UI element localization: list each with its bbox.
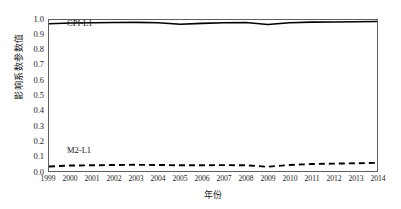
x-tick-label: 2000 — [62, 174, 77, 183]
x-tick-label: 2013 — [348, 174, 363, 183]
y-tick-label: 0.9 — [33, 30, 44, 39]
y-axis-tick-labels: 1.00.90.80.70.60.50.40.30.20.10.0 — [22, 13, 44, 173]
plot-svg — [49, 20, 377, 171]
x-tick-label: 2004 — [150, 174, 165, 183]
plot-area: CPI-L1 M2-L1 — [48, 19, 378, 172]
x-tick-label: 2002 — [106, 174, 121, 183]
y-tick-label: 0.1 — [33, 152, 44, 161]
y-tick-label: 0.8 — [33, 45, 44, 54]
x-tick-label: 1999 — [40, 174, 55, 183]
x-tick-label: 2011 — [305, 174, 320, 183]
y-tick-label: 0.2 — [33, 137, 44, 146]
line-chart: 影响系数参数值 1.00.90.80.70.60.50.40.30.20.10.… — [0, 0, 401, 209]
y-tick-label: 0.4 — [33, 106, 44, 115]
x-tick-label: 2010 — [282, 174, 297, 183]
x-tick-label: 2012 — [326, 174, 341, 183]
series-line-cpi — [49, 22, 377, 25]
x-tick-label: 2005 — [172, 174, 187, 183]
x-tick-label: 2009 — [260, 174, 275, 183]
x-tick-label: 2001 — [84, 174, 99, 183]
x-tick-label: 2006 — [194, 174, 209, 183]
series-label-cpi: CPI-L1 — [67, 18, 93, 28]
y-tick-label: 0.7 — [33, 60, 44, 69]
y-tick-label: 0.5 — [33, 91, 44, 100]
x-tick-label: 2003 — [128, 174, 143, 183]
x-tick-label: 2007 — [216, 174, 231, 183]
x-axis-title: 年份 — [48, 188, 378, 201]
x-tick-label: 2008 — [238, 174, 253, 183]
y-tick-label: 0.6 — [33, 76, 44, 85]
x-axis-tick-labels: 1999200020012002200320042005200620072008… — [48, 174, 378, 186]
series-line-m2 — [49, 163, 377, 167]
series-label-m2: M2-L1 — [67, 145, 91, 155]
x-tick-label: 2014 — [370, 174, 385, 183]
y-tick-label: 0.3 — [33, 122, 44, 131]
y-tick-label: 1.0 — [33, 15, 44, 24]
